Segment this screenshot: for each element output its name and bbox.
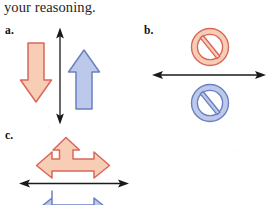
figure-page: your reasoning. a. b. c. [0,0,270,205]
salmon-tee-arrow [37,138,110,179]
salmon-down-arrow [21,43,52,102]
figure-part-a [10,26,110,126]
salmon-no-symbol-icon [192,29,229,66]
figure-part-c [14,136,134,205]
prompt-text: your reasoning. [4,0,96,16]
axis-vertical-double-arrow [56,28,64,125]
blue-up-arrow [69,50,100,109]
axis-horizontal-double-arrow [19,180,129,188]
axis-horizontal-double-arrow [152,71,266,79]
figure-part-b [150,24,268,126]
blue-no-symbol-icon [192,85,229,122]
part-label-c: c. [5,129,13,141]
blue-tee-arrow [37,191,110,205]
